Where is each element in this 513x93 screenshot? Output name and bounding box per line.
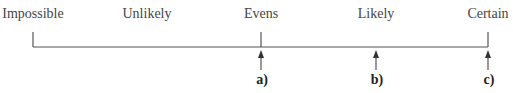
marker-a-label: a) [256,72,268,88]
marker-c-label: c) [484,72,495,88]
marker-b-label: b) [371,72,383,88]
arrow-c-icon [485,50,491,58]
arrow-a-icon [258,50,264,58]
arrow-b-icon [373,50,379,58]
